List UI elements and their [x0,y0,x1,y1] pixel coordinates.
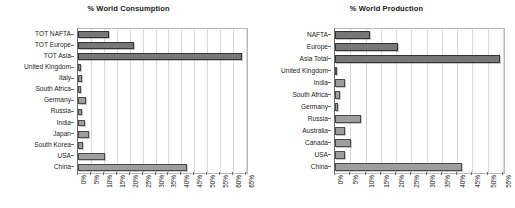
x-tick-label: 5% [93,175,100,184]
x-tick-label: 10% [368,175,375,188]
x-tick-mark [219,172,220,175]
category-label: NAFTA [258,28,331,40]
x-tick-mark [349,172,350,175]
category-tick-mark [328,154,331,155]
x-tick-mark [193,172,194,175]
bar [78,109,82,116]
x-tick-label: 20% [132,175,139,188]
bar-row [335,149,504,161]
x-tick-mark [334,172,335,175]
x-tick-mark [441,172,442,175]
chart-title-consumption: % World Consumption [0,4,257,13]
bar-row [78,140,247,151]
category-tick-mark [71,111,74,112]
bar [78,153,105,160]
chart-panel-consumption: % World Consumption TOT NAFTATOT EuropeT… [0,0,257,208]
bar [335,55,500,62]
category-label: TOT Asia [0,50,74,61]
category-label: China [258,160,331,172]
bar [335,139,351,146]
bar [335,91,340,98]
bar-row [78,51,247,62]
bar-row [335,53,504,65]
category-tick-mark [328,130,331,131]
x-tick-mark [206,172,207,175]
x-tick-label: 5% [352,175,359,184]
x-tick-label: 45% [474,175,481,188]
x-tick-label: 60% [235,175,242,188]
bar [335,43,398,50]
category-tick-mark [71,166,74,167]
category-tick-mark [71,155,74,156]
chart-panel-production: % World Production NAFTAEuropeAsia Total… [258,0,515,208]
x-tick-label: 0% [337,175,344,184]
bar [78,120,85,127]
x-tick-mark [380,172,381,175]
x-tick-mark [410,172,411,175]
bar-row [78,129,247,140]
x-tick-label: 15% [383,175,390,188]
category-tick-mark [71,133,74,134]
category-label: Australia [258,124,331,136]
bar-row [335,113,504,125]
chart-title-production: % World Production [258,4,515,13]
bar-row [335,89,504,101]
bar [78,86,81,93]
bar [335,79,345,86]
x-tick-mark [365,172,366,175]
x-tick-label: 45% [196,175,203,188]
x-tick-mark [426,172,427,175]
x-tick-mark [245,172,246,175]
category-tick-mark [328,70,331,71]
x-tick-label: 65% [248,175,255,188]
x-tick-label: 55% [505,175,512,188]
category-tick-mark [328,106,331,107]
category-axis-consumption: TOT NAFTATOT EuropeTOT AsiaUnited Kingdo… [0,28,74,174]
category-tick-mark [328,46,331,47]
x-tick-label: 10% [106,175,113,188]
category-label: India [0,117,74,128]
bar-row [78,40,247,51]
x-tick-label: 55% [222,175,229,188]
category-label: TOT Europe [0,39,74,50]
value-axis-consumption: 0%5%10%15%20%25%30%35%40%45%50%55%60%65% [77,175,248,208]
category-label: TOT NAFTA [0,28,74,39]
bar [335,115,361,122]
category-label: USA [258,148,331,160]
category-tick-mark [328,34,331,35]
category-tick-mark [328,118,331,119]
category-label: Canada [258,136,331,148]
x-tick-label: 25% [413,175,420,188]
category-label: USA [0,150,74,161]
category-tick-mark [71,45,74,46]
category-label: Italy [0,72,74,83]
x-tick-label: 40% [459,175,466,188]
bar [78,164,187,171]
category-label: United Kingdom [0,61,74,72]
bar [78,142,83,149]
bar [78,131,89,138]
x-tick-label: 50% [490,175,497,188]
category-tick-mark [328,82,331,83]
bars-production [335,29,504,173]
x-tick-mark [456,172,457,175]
x-tick-label: 30% [158,175,165,188]
bar [78,64,81,71]
category-label: Europe [258,40,331,52]
category-tick-mark [71,56,74,57]
bar-row [78,29,247,40]
category-tick-mark [328,58,331,59]
category-tick-mark [71,78,74,79]
x-tick-mark [395,172,396,175]
bar-row [78,84,247,95]
x-tick-label: 25% [145,175,152,188]
bar-row [78,106,247,117]
bar-row [335,41,504,53]
x-tick-label: 0% [80,175,87,184]
x-tick-mark [471,172,472,175]
x-tick-mark [487,172,488,175]
value-axis-production: 0%5%10%15%20%25%30%35%40%45%50%55% [334,175,505,208]
category-tick-mark [71,89,74,90]
bar [78,42,134,49]
category-label: Asia Total [258,52,331,64]
